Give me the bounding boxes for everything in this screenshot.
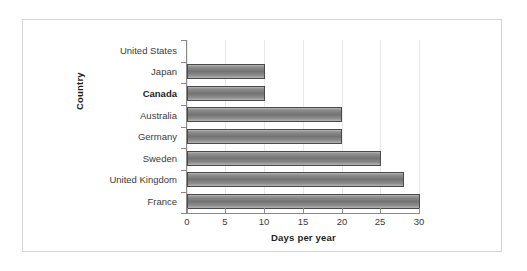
x-axis-tick [264, 208, 265, 213]
x-axis-tick [380, 208, 381, 213]
gridline-15 [303, 40, 304, 213]
x-axis-tick [342, 208, 343, 213]
y-tick-label-sweden: Sweden [27, 153, 177, 164]
x-tick-label-25: 25 [360, 216, 400, 227]
y-axis-tick [181, 148, 187, 149]
y-tick-label-canada: Canada [27, 88, 177, 99]
bar-australia [187, 107, 342, 122]
x-tick-label-0: 0 [167, 216, 207, 227]
y-axis-title: Country [74, 72, 85, 110]
x-tick-label-20: 20 [322, 216, 362, 227]
x-axis-tick [187, 208, 188, 213]
y-axis-tick [181, 170, 187, 171]
bar-germany [187, 129, 342, 144]
bar-japan [187, 64, 265, 79]
x-axis-line [186, 213, 420, 214]
y-tick-label-australia: Australia [27, 110, 177, 121]
gridline-25 [380, 40, 381, 213]
y-axis-tick [181, 105, 187, 106]
x-tick-label-10: 10 [244, 216, 284, 227]
y-axis-tick [181, 127, 187, 128]
chart-figure: United States Japan Canada Australia Ger… [0, 0, 527, 271]
bar-france [187, 194, 420, 209]
x-axis-tick [419, 208, 420, 213]
x-tick-label-30: 30 [399, 216, 439, 227]
y-axis-tick [181, 62, 187, 63]
y-tick-label-united-states: United States [27, 45, 177, 56]
bar-united-kingdom [187, 172, 404, 187]
x-tick-label-5: 5 [205, 216, 245, 227]
y-tick-label-united-kingdom: United Kingdom [27, 174, 177, 185]
y-axis-tick [181, 83, 187, 84]
x-axis-tick [225, 208, 226, 213]
y-axis-tick [181, 213, 187, 214]
bar-sweden [187, 151, 381, 166]
y-axis-tick [181, 40, 187, 41]
x-axis-tick [303, 208, 304, 213]
bar-canada [187, 86, 265, 101]
y-axis-tick [181, 192, 187, 193]
gridline-30 [419, 40, 420, 213]
y-tick-label-japan: Japan [27, 66, 177, 77]
y-tick-label-germany: Germany [27, 131, 177, 142]
plot-area [187, 40, 420, 213]
x-axis-title: Days per year [187, 232, 420, 243]
gridline-20 [342, 40, 343, 213]
x-tick-label-15: 15 [283, 216, 323, 227]
y-tick-label-france: France [27, 196, 177, 207]
